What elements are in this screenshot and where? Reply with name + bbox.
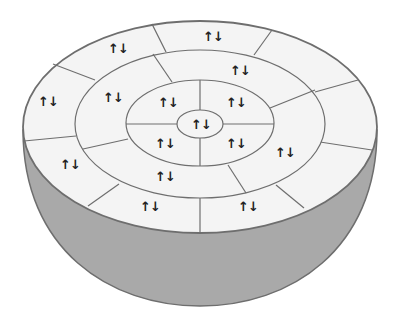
spin-pair-icon: ↑↓ bbox=[60, 158, 80, 171]
spin-pair-icon: ↑↓ bbox=[191, 118, 211, 131]
spin-pair-icon: ↑↓ bbox=[108, 42, 128, 55]
spin-pair-icon: ↑↓ bbox=[103, 91, 123, 104]
spin-pair-icon: ↑↓ bbox=[238, 200, 258, 213]
spin-pair-icon: ↑↓ bbox=[38, 95, 58, 108]
spin-pair-icon: ↑↓ bbox=[226, 137, 246, 150]
spin-pair-icon: ↑↓ bbox=[230, 64, 250, 77]
spin-pair-icon: ↑↓ bbox=[155, 170, 175, 183]
spin-pair-icon: ↑↓ bbox=[140, 200, 160, 213]
spin-pair-icon: ↑↓ bbox=[275, 146, 295, 159]
spin-pair-icon: ↑↓ bbox=[158, 96, 178, 109]
spin-pair-icon: ↑↓ bbox=[155, 137, 175, 150]
spin-pair-icon: ↑↓ bbox=[203, 30, 223, 43]
spin-pair-icon: ↑↓ bbox=[226, 96, 246, 109]
